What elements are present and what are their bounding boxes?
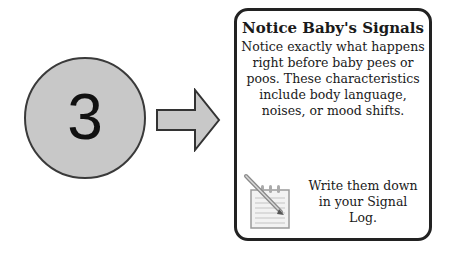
step-number: 3 xyxy=(67,85,103,149)
card-footer: Write them down in your Signal Log. xyxy=(237,168,429,238)
card-footer-text: Write them down in your Signal Log. xyxy=(303,178,423,226)
arrow-right-icon xyxy=(155,88,223,152)
instruction-card: Notice Baby's Signals Notice exactly wha… xyxy=(234,8,432,241)
step-number-circle: 3 xyxy=(24,57,146,179)
notepad-pencil-icon xyxy=(243,172,299,232)
card-title: Notice Baby's Signals xyxy=(241,19,425,38)
card-body: Notice exactly what happens right before… xyxy=(241,39,425,119)
